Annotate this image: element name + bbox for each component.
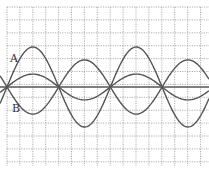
label-b: B xyxy=(12,102,20,115)
background xyxy=(0,0,209,170)
label-a: A xyxy=(9,52,19,65)
wave-superposition-diagram: A B xyxy=(0,0,209,170)
